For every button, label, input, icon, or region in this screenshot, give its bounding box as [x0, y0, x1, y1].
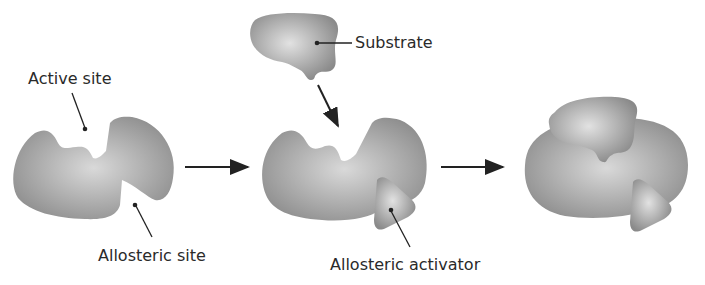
allosteric-site-label: Allosteric site [98, 246, 206, 265]
enzyme-stage-1: Active site Allosteric site [13, 69, 206, 265]
active-site-label: Active site [28, 69, 111, 88]
substrate-label: Substrate [355, 33, 433, 52]
enzyme-shape [13, 117, 174, 219]
allosteric-activator-label: Allosteric activator [330, 255, 481, 274]
allosteric-diagram: Active site Allosteric site Substrate Al… [0, 0, 705, 285]
substrate-arrow [318, 85, 338, 126]
substrate-shape [250, 13, 338, 80]
enzyme-stage-2: Substrate Allosteric activator [250, 13, 481, 274]
enzyme-stage-3 [525, 97, 688, 232]
